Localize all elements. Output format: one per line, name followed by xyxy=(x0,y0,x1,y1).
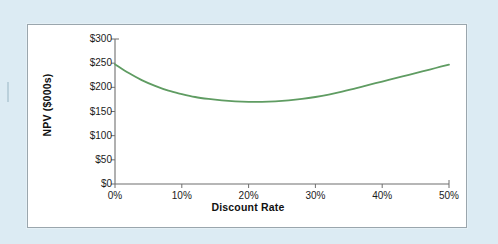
x-axis-tick-label: 20% xyxy=(229,191,269,201)
y-axis-title: NPV ($000s) xyxy=(41,50,53,160)
chart-plot-area: $0$50$100$150$200$250$300 0%10%20%30%40%… xyxy=(28,25,468,229)
figure-root: $0$50$100$150$200$250$300 0%10%20%30%40%… xyxy=(0,0,498,244)
y-axis-tick-label: $200 xyxy=(90,82,112,92)
y-axis-tick-label: $150 xyxy=(90,107,112,117)
x-axis-tick-label: 10% xyxy=(162,191,202,201)
y-axis-tick-label: $300 xyxy=(90,34,112,44)
x-axis-tick-label: 40% xyxy=(362,191,402,201)
y-axis-tick-label: $100 xyxy=(90,131,112,141)
x-axis-tick-label: 50% xyxy=(429,191,469,201)
scan-edge-artifact xyxy=(7,82,9,102)
chart-panel: $0$50$100$150$200$250$300 0%10%20%30%40%… xyxy=(27,24,467,228)
x-axis-tick-label: 0% xyxy=(95,191,135,201)
series-line-1 xyxy=(115,64,449,102)
y-axis-tick-label: $250 xyxy=(90,58,112,68)
x-axis-title: Discount Rate xyxy=(28,201,468,213)
x-axis-tick-label: 30% xyxy=(295,191,335,201)
y-axis-tick-label: $50 xyxy=(95,155,112,165)
y-axis-tick-label: $0 xyxy=(101,179,112,189)
